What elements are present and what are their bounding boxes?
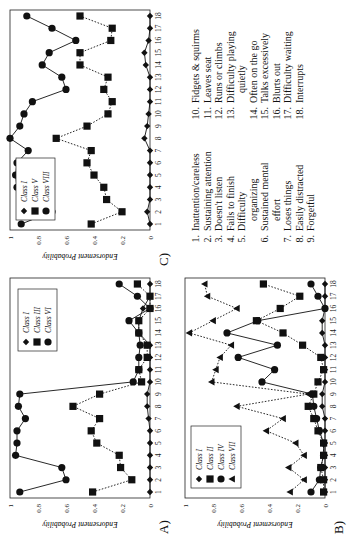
triangle-marker-icon xyxy=(300,476,306,483)
symptom-number: 4. xyxy=(225,235,237,251)
square-marker-icon xyxy=(96,415,103,422)
diamond-marker-icon xyxy=(140,305,146,311)
symptom-item: 16.Blurts out xyxy=(271,0,283,123)
symptom-number: 3. xyxy=(213,235,225,251)
diamond-marker-icon xyxy=(147,98,153,104)
square-marker-icon xyxy=(277,305,284,312)
y-tick-label: 0.6 xyxy=(63,236,71,245)
symptom-text: Fidgets & squirms xyxy=(190,29,202,103)
x-tick-label: 16 xyxy=(154,36,163,44)
circle-marker-icon xyxy=(23,12,30,19)
y-tick-label: 0.6 xyxy=(63,504,71,513)
square-marker-icon xyxy=(69,403,76,410)
circle-marker-icon xyxy=(317,464,324,471)
diamond-marker-icon xyxy=(147,147,153,153)
circle-marker-icon xyxy=(44,338,51,345)
square-marker-icon xyxy=(104,74,111,81)
series-class-i xyxy=(136,281,154,495)
panel-label: A) xyxy=(156,520,172,534)
circle-marker-icon xyxy=(310,403,317,410)
square-marker-icon xyxy=(88,427,95,434)
triangle-marker-icon xyxy=(285,464,291,471)
diamond-marker-icon xyxy=(322,415,328,421)
circle-marker-icon xyxy=(58,74,65,81)
y-axis-label: Endorsement Probability xyxy=(217,520,294,529)
figure: 00.20.40.60.8112345678910111213141516171… xyxy=(0,0,350,536)
panel-label: C) xyxy=(156,253,172,266)
symptom-item: organizing xyxy=(248,126,260,251)
square-marker-icon xyxy=(135,317,142,324)
symptom-text: Easily distracted xyxy=(294,165,306,231)
diamond-marker-icon xyxy=(319,330,325,336)
symptom-text: effort xyxy=(271,199,283,231)
circle-marker-icon xyxy=(217,475,224,482)
symptom-item: 12.Runs or climbs xyxy=(213,0,225,123)
square-marker-icon xyxy=(260,280,267,287)
x-tick-label: 6 xyxy=(154,161,163,165)
diamond-marker-icon xyxy=(319,403,325,409)
diamond-marker-icon xyxy=(145,111,151,117)
x-tick-label: 16 xyxy=(329,304,338,312)
symptom-item: 17.Difficulty waiting xyxy=(282,0,294,123)
square-marker-icon xyxy=(317,354,324,361)
symptom-text: Often on the go xyxy=(248,41,260,104)
symptom-number: 14. xyxy=(248,107,260,123)
circle-marker-icon xyxy=(48,25,55,32)
x-tick-label: 9 xyxy=(329,392,338,396)
square-marker-icon xyxy=(76,12,83,19)
diamond-marker-icon xyxy=(141,135,147,141)
symptom-text: Sustaining attention xyxy=(202,151,214,231)
symptom-list-hyperactivity: 10.Fidgets & squirms11.Leaves seat12.Run… xyxy=(190,0,305,123)
diamond-marker-icon xyxy=(147,160,153,166)
y-tick-label: 0.8 xyxy=(35,236,43,245)
circle-marker-icon xyxy=(134,293,141,300)
diamond-marker-icon xyxy=(144,209,150,215)
circle-marker-icon xyxy=(135,366,142,373)
circle-marker-icon xyxy=(46,49,53,56)
legend-entry-label: Class VIII xyxy=(42,171,51,202)
chart-legend: Class IClass IIClass IVClass VII xyxy=(191,426,241,488)
diamond-marker-icon xyxy=(147,428,153,434)
x-tick-label: 18 xyxy=(154,280,163,288)
circle-marker-icon xyxy=(13,439,20,446)
series-class-i xyxy=(319,281,328,495)
diamond-marker-icon xyxy=(144,391,150,397)
series-class-v xyxy=(53,12,126,227)
triangle-marker-icon xyxy=(305,391,311,398)
symptom-item: 8.Easily distracted xyxy=(294,126,306,251)
square-marker-icon xyxy=(320,488,327,495)
triangle-marker-icon xyxy=(292,439,298,446)
circle-marker-icon xyxy=(316,427,323,434)
symptom-text: Runs or climbs xyxy=(213,42,225,103)
circle-marker-icon xyxy=(29,98,36,105)
x-tick-label: 7 xyxy=(154,148,163,152)
circle-marker-icon xyxy=(235,354,242,361)
square-marker-icon xyxy=(83,123,90,130)
triangle-marker-icon xyxy=(208,378,214,385)
square-marker-icon xyxy=(100,184,107,191)
x-tick-label: 14 xyxy=(154,329,163,337)
panel-label: B) xyxy=(331,521,347,534)
circle-marker-icon xyxy=(321,305,328,312)
legend-entry-label: Class VI xyxy=(44,307,53,333)
symptom-item: 13.Difficulty playing xyxy=(225,0,237,123)
symptom-item: 15.Talks excessively xyxy=(259,0,271,123)
symptom-text: Difficulty playing xyxy=(225,31,237,103)
y-tick-label: 0 xyxy=(147,236,155,240)
circle-marker-icon xyxy=(22,415,29,422)
series-class-i xyxy=(141,13,153,227)
diamond-marker-icon xyxy=(147,221,153,227)
chart-legend: Class IClass VClass VIII xyxy=(16,158,55,220)
symptom-number: 13. xyxy=(225,107,237,123)
symptom-number xyxy=(236,107,248,123)
x-tick-label: 6 xyxy=(154,429,163,433)
symptom-text: Loses things xyxy=(282,181,294,231)
square-marker-icon xyxy=(320,366,327,373)
symptom-number: 17. xyxy=(282,107,294,123)
symptom-list: 1.Inattention/careless2.Sustaining atten… xyxy=(190,1,340,251)
symptom-text: Difficulty waiting xyxy=(282,31,294,103)
diamond-marker-icon xyxy=(319,391,325,397)
circle-marker-icon xyxy=(135,354,142,361)
diamond-marker-icon xyxy=(322,281,328,287)
diamond-marker-icon xyxy=(147,281,153,287)
